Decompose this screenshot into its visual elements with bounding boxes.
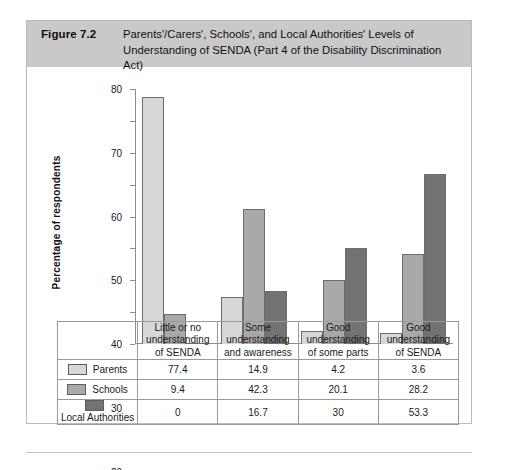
bar-group	[215, 89, 295, 344]
data-table: Little or nounderstandingof SENDASomeund…	[57, 321, 459, 425]
figure-number-label: Figure 7.2	[41, 28, 96, 40]
legend-label: Local Authorities	[61, 412, 134, 423]
column-header-1: Little or nounderstandingof SENDA	[138, 322, 218, 360]
footer-rule	[26, 452, 472, 453]
y-tick-label: 20	[111, 466, 122, 470]
data-cell: 77.4	[138, 360, 218, 380]
data-table-body: Little or nounderstandingof SENDASomeund…	[58, 322, 459, 425]
legend-item-local-authorities: Local Authorities	[58, 400, 138, 425]
data-cell: 30	[298, 400, 378, 425]
y-tick-label: 70	[111, 147, 122, 158]
table-row: Schools9.442.320.128.2	[58, 380, 459, 400]
legend-label: Schools	[92, 384, 128, 395]
figure-page: Figure 7.2 Parents'/Carers', Schools', a…	[0, 0, 506, 470]
legend-item-schools: Schools	[58, 380, 138, 400]
table-header-row: Little or nounderstandingof SENDASomeund…	[58, 322, 459, 360]
data-cell: 3.6	[378, 360, 458, 380]
bar-group	[374, 89, 454, 344]
figure-box: Figure 7.2 Parents'/Carers', Schools', a…	[26, 20, 472, 424]
legend-swatch-icon	[68, 364, 87, 375]
legend-item-parents: Parents	[58, 360, 138, 380]
legend-swatch-icon	[85, 400, 104, 411]
legend-swatch-icon	[67, 384, 86, 395]
column-header-3: Goodunderstandingof some parts	[298, 322, 378, 360]
table-row: Parents77.414.94.23.6	[58, 360, 459, 380]
data-cell: 28.2	[378, 380, 458, 400]
bar-group	[135, 89, 215, 344]
y-tick-label: 80	[111, 84, 122, 95]
data-cell: 42.3	[218, 380, 298, 400]
bar-group	[294, 89, 374, 344]
y-tick-label: 60	[111, 211, 122, 222]
table-row: Local Authorities016.73053.3	[58, 400, 459, 425]
y-axis-title: Percentage of respondents	[51, 133, 62, 313]
axes: 01020304050607080	[135, 89, 453, 344]
column-header-2: Someunderstandingand awareness	[218, 322, 298, 360]
bar-groups	[135, 89, 453, 344]
column-header-4: Goodunderstandingof SENDA	[378, 322, 458, 360]
bar-parents	[142, 97, 164, 344]
legend-label: Parents	[93, 364, 127, 375]
data-cell: 9.4	[138, 380, 218, 400]
y-tick-label: 50	[111, 275, 122, 286]
data-cell: 0	[138, 400, 218, 425]
data-cell: 16.7	[218, 400, 298, 425]
bar-local-authorities	[424, 174, 446, 344]
data-cell: 4.2	[298, 360, 378, 380]
data-cell: 53.3	[378, 400, 458, 425]
table-corner-cell	[58, 322, 138, 360]
figure-header-band: Figure 7.2 Parents'/Carers', Schools', a…	[27, 21, 471, 67]
data-table-wrap: Little or nounderstandingof SENDASomeund…	[57, 321, 459, 425]
data-cell: 20.1	[298, 380, 378, 400]
data-cell: 14.9	[218, 360, 298, 380]
